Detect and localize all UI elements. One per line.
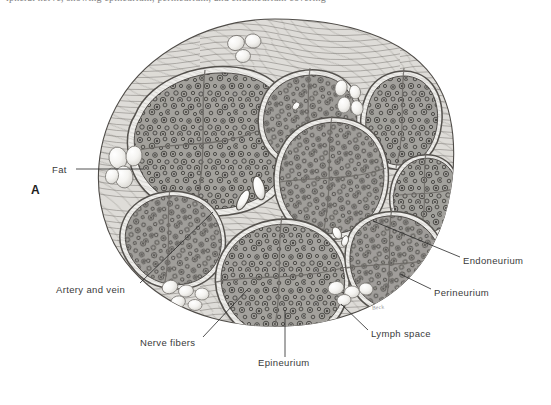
label-lymph-space: Lymph space	[371, 329, 431, 339]
panel-letter-a: A	[31, 184, 40, 196]
figure-root: ipheral nerve, showing epineurium, perin…	[0, 0, 551, 405]
label-perineurium: Perineurium	[434, 288, 489, 298]
label-endoneurium: Endoneurium	[463, 256, 523, 266]
label-epineurium: Epineurium	[258, 358, 310, 368]
nerve-cross-section-illustration	[0, 0, 551, 405]
label-artery-and-vein: Artery and vein	[56, 285, 125, 295]
label-fat: Fat	[52, 165, 67, 175]
label-nerve-fibers: Nerve fibers	[140, 338, 195, 348]
